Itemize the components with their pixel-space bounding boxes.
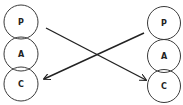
right-ego-state-label: P xyxy=(161,19,167,28)
left-ego-state-label: A xyxy=(18,50,25,59)
left-ego-state-label: P xyxy=(18,18,24,27)
crossed-transaction-diagram: PAC PAC xyxy=(0,0,183,105)
right-ego-state-label: C xyxy=(161,82,167,91)
transaction-arrows xyxy=(44,28,146,80)
arrow-right-P-to-left-C xyxy=(44,33,144,79)
left-ego-state-label: C xyxy=(18,80,24,89)
right-person-ego-states: PAC xyxy=(148,7,181,103)
right-ego-state-label: A xyxy=(161,52,168,61)
arrow-left-P-to-right-C xyxy=(46,28,146,80)
left-person-ego-states: PAC xyxy=(4,5,38,101)
